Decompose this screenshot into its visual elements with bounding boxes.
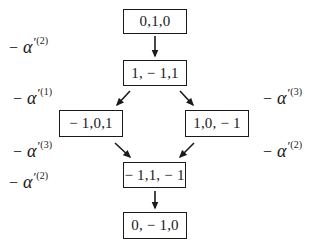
edge-label-n5-n6: −α′(2) (9, 173, 48, 191)
node-1-m1-1: 1, − 1,1 (123, 60, 187, 86)
edge-label-n3-n5: −α′(3) (13, 142, 52, 160)
node-0-1-0: 0,1,0 (123, 9, 187, 34)
minus-sign: − (9, 39, 18, 56)
edge-label-n4-n5: −α′(2) (263, 142, 302, 160)
superscript: (3) (40, 139, 52, 150)
minus-sign: − (9, 174, 18, 191)
arrow-n4-n5 (180, 143, 194, 157)
alpha-symbol: α (27, 88, 36, 108)
node-m1-0-1: − 1,0,1 (59, 110, 123, 137)
arrow-n2-n4 (180, 91, 193, 105)
node-label: 0,1,0 (140, 13, 171, 30)
node-0-m1-0: 0, − 1,0 (123, 212, 187, 239)
alpha-symbol: α (277, 88, 286, 108)
node-label: 0, − 1,0 (131, 217, 179, 234)
node-label: 1,0, − 1 (193, 115, 241, 132)
minus-sign: − (13, 143, 22, 160)
alpha-symbol: α (23, 37, 32, 57)
alpha-symbol: α (277, 141, 286, 161)
edge-label-n1-n2: −α′(2) (9, 38, 48, 56)
minus-sign: − (263, 143, 272, 160)
weight-diagram: 0,1,0 1, − 1,1 − 1,0,1 1,0, − 1 − 1,1, −… (0, 0, 309, 245)
alpha-symbol: α (23, 172, 32, 192)
arrow-n3-n5 (115, 143, 130, 157)
edge-label-n2-n3: −α′(1) (13, 89, 52, 107)
node-label: − 1,1, − 1 (124, 167, 184, 184)
node-1-0-m1: 1,0, − 1 (185, 110, 249, 137)
node-m1-1-m1: − 1,1, − 1 (123, 162, 186, 188)
superscript: (2) (36, 170, 48, 181)
superscript: (2) (36, 35, 48, 46)
alpha-symbol: α (27, 141, 36, 161)
minus-sign: − (13, 90, 22, 107)
node-label: − 1,0,1 (69, 115, 113, 132)
minus-sign: − (263, 90, 272, 107)
superscript: (3) (290, 86, 302, 97)
superscript: (1) (40, 86, 52, 97)
edge-label-n2-n4: −α′(3) (263, 89, 302, 107)
superscript: (2) (290, 139, 302, 150)
arrow-n2-n3 (117, 91, 130, 105)
node-label: 1, − 1,1 (131, 65, 179, 82)
